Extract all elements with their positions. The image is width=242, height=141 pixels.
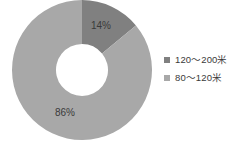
donut-slices xyxy=(12,0,152,140)
chart-legend: 120～200米 80～120米 xyxy=(164,52,242,88)
pie-slice-label-120-200: 14% xyxy=(91,20,111,31)
pie-slice-label-80-120: 86% xyxy=(55,107,75,118)
donut-chart: 14% 86% 120～200米 80～120米 xyxy=(0,0,242,141)
legend-item-120-200[interactable]: 120～200米 xyxy=(164,52,242,68)
legend-square-marker-icon xyxy=(164,57,170,63)
legend-square-marker-icon xyxy=(164,75,170,81)
legend-item-label: 80～120米 xyxy=(175,72,222,84)
legend-item-80-120[interactable]: 80～120米 xyxy=(164,70,242,86)
legend-item-label: 120～200米 xyxy=(175,54,228,66)
